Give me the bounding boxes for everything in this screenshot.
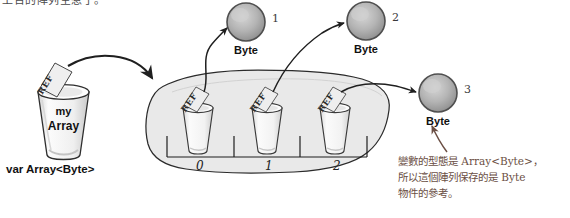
array-index-label-1: 1: [265, 159, 273, 173]
byte-object-2-number: 2: [392, 11, 399, 24]
annotation-line-2: 所以這個陣列保存的是 Byte: [398, 169, 543, 185]
diagram-canvas: 上台的陣列空惹了。: [0, 0, 570, 218]
byte-object-2: [347, 2, 385, 40]
byte-object-3-number: 3: [464, 83, 471, 96]
byte-object-1: [227, 3, 265, 41]
annotation-line-3: 物件的參考。: [398, 185, 543, 201]
byte-object-3: [419, 74, 457, 112]
array-index-label-0: 0: [196, 159, 204, 173]
annotation-line-1: 變數的型態是 Array<Byte>，: [398, 153, 543, 169]
byte-object-1-number: 1: [272, 12, 279, 25]
arrow-annotation-to-byte3: [432, 126, 447, 152]
byte-object-1-label: Byte: [226, 44, 266, 56]
arrow-variable-to-array: [68, 56, 152, 78]
variable-declaration-label: var Array<Byte>: [6, 163, 94, 175]
variable-cup-label-line2: Array: [37, 120, 90, 132]
byte-object-2-label: Byte: [346, 43, 386, 55]
byte-object-3-label: Byte: [418, 115, 458, 127]
annotation-note: 變數的型態是 Array<Byte>， 所以這個陣列保存的是 Byte 物件的參…: [398, 153, 543, 201]
variable-cup-label-line1: my: [40, 105, 87, 117]
array-index-label-2: 2: [333, 159, 341, 173]
